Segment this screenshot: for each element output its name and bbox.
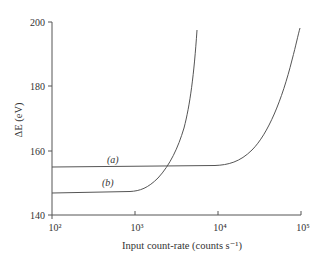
curve-b xyxy=(52,30,197,193)
y-axis-title: ΔE (eV) xyxy=(13,102,25,138)
curve-a-label: (a) xyxy=(107,154,119,166)
y-tick-label-160: 160 xyxy=(30,146,45,157)
curve-a xyxy=(52,28,300,167)
y-ticks xyxy=(48,22,52,215)
x-tick-label-1e2: 10² xyxy=(49,222,62,233)
y-tick-label-180: 180 xyxy=(30,81,45,92)
x-tick-label-1e3: 10³ xyxy=(131,222,144,233)
curve-b-label: (b) xyxy=(102,177,114,189)
y-tick-label-200: 200 xyxy=(30,17,45,28)
x-axis-title: Input count-rate (counts s⁻¹) xyxy=(122,240,242,252)
x-tick-label-1e5: 10⁵ xyxy=(296,222,310,233)
chart: 200 180 160 140 10² 10³ 10⁴ 10⁵ Input co… xyxy=(0,0,327,259)
y-tick-label-140: 140 xyxy=(30,210,45,221)
x-tick-label-1e4: 10⁴ xyxy=(213,222,227,233)
